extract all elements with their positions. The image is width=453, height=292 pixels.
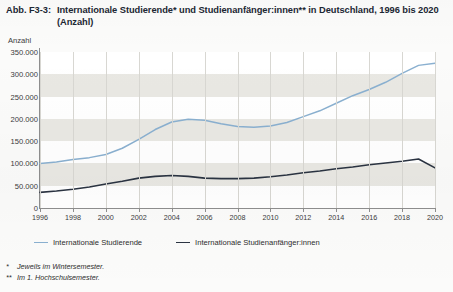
x-axis-tick-label: 2010	[262, 213, 278, 222]
footnote: **Im 1. Hochschulsemester.	[6, 273, 449, 284]
vertical-gridline	[336, 52, 337, 208]
footnote-text: Im 1. Hochschulsemester.	[17, 273, 449, 284]
y-axis-tick-label: 100.000	[11, 159, 38, 168]
chart-legend: Internationale Studierende International…	[34, 238, 354, 247]
vertical-gridline	[303, 52, 304, 208]
footnotes: *Jeweils im Wintersemester.**Im 1. Hochs…	[6, 262, 449, 283]
vertical-gridline	[139, 52, 140, 208]
vertical-gridline	[205, 52, 206, 208]
legend-swatch-studierende	[34, 242, 48, 243]
x-axis-tick-label: 1998	[65, 213, 81, 222]
x-axis-tick-label: 1996	[32, 213, 48, 222]
footnote-marker: *	[6, 262, 17, 273]
figure-title-block: Abb. F3-3: Internationale Studierende* u…	[6, 4, 449, 29]
legend-label-studienanfaenger: Internationale Studienanfänger:innen	[195, 238, 320, 247]
figure-number: Abb. F3-3:	[6, 4, 51, 16]
legend-swatch-studienanfaenger	[176, 242, 190, 243]
y-axis-tick-label: 150.000	[11, 137, 38, 146]
x-axis-tick-labels: 1996199820002002200420062008201020122014…	[40, 211, 435, 225]
x-axis-tick-label: 2000	[98, 213, 114, 222]
y-axis-tick-label: 250.000	[11, 92, 38, 101]
vertical-gridline	[238, 52, 239, 208]
figure-page: Abb. F3-3: Internationale Studierende* u…	[0, 0, 453, 292]
x-axis-tick-label: 2012	[295, 213, 311, 222]
x-axis-tick	[435, 208, 436, 212]
footnote-text: Jeweils im Wintersemester.	[17, 262, 449, 273]
vertical-gridline	[40, 52, 41, 208]
legend-label-studierende: Internationale Studierende	[53, 238, 142, 247]
y-axis-tick-label: 50.000	[15, 181, 38, 190]
y-axis-tick-label: 200.000	[11, 114, 38, 123]
vertical-gridline	[172, 52, 173, 208]
x-axis-tick-label: 2014	[328, 213, 344, 222]
vertical-gridline	[435, 52, 436, 208]
x-axis-tick-label: 2020	[427, 213, 443, 222]
vertical-gridline	[73, 52, 74, 208]
vertical-gridline	[369, 52, 370, 208]
plot-area	[40, 52, 435, 208]
x-axis-tick-label: 2006	[197, 213, 213, 222]
x-axis-tick-label: 2008	[230, 213, 246, 222]
y-axis-label: Anzahl	[8, 36, 31, 45]
legend-item-studierende: Internationale Studierende	[34, 238, 142, 247]
y-axis-tick-label: 300.000	[11, 70, 38, 79]
vertical-gridline	[270, 52, 271, 208]
footnote-marker: **	[6, 273, 17, 284]
y-axis-tick-label: 0	[34, 204, 38, 213]
x-axis-tick-label: 2018	[394, 213, 410, 222]
legend-item-studienanfaenger: Internationale Studienanfänger:innen	[176, 238, 320, 247]
x-axis-tick-label: 2016	[361, 213, 377, 222]
y-axis-tick-labels: 050.000100.000150.000200.000250.000300.0…	[0, 46, 38, 216]
page-title: Internationale Studierende* und Studiena…	[57, 4, 449, 29]
x-axis-tick-label: 2004	[164, 213, 180, 222]
vertical-gridline	[106, 52, 107, 208]
x-axis-tick-label: 2002	[131, 213, 147, 222]
footnote: *Jeweils im Wintersemester.	[6, 262, 449, 273]
y-axis-tick-label: 350.000	[11, 48, 38, 57]
vertical-gridline	[402, 52, 403, 208]
